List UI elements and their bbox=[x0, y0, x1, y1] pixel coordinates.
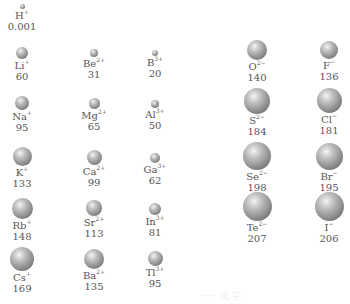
ion-radius-value: 206 bbox=[299, 233, 350, 244]
ion-in: In3+81 bbox=[125, 203, 185, 238]
ion-symbol: K+ bbox=[0, 168, 52, 178]
ion-symbol: Al3+ bbox=[125, 110, 185, 120]
ion-radius-value: 31 bbox=[64, 69, 124, 80]
ion-radius-value: 60 bbox=[0, 71, 52, 82]
ion-radius-value: 99 bbox=[64, 177, 124, 188]
ion-b: B3+20 bbox=[125, 50, 185, 79]
ion-cl: Cl−181 bbox=[299, 88, 350, 136]
ion-symbol: Cl− bbox=[299, 115, 350, 125]
ion-radius-value: 95 bbox=[0, 122, 52, 133]
ion-symbol: Ga3+ bbox=[125, 165, 185, 175]
ion-br: Br−195 bbox=[299, 143, 350, 193]
ion-radius-value: 148 bbox=[0, 231, 52, 242]
ion-sphere-icon bbox=[10, 247, 34, 271]
ion-sphere-icon bbox=[317, 88, 342, 113]
ion-radius-value: 62 bbox=[125, 175, 185, 186]
ion-s: S2−184 bbox=[227, 88, 287, 137]
watermark: ······ 化 学 bbox=[200, 289, 241, 302]
ion-mg: Mg2+65 bbox=[64, 98, 124, 132]
ion-sphere-icon bbox=[84, 249, 104, 269]
ion-cs: Cs+169 bbox=[0, 247, 52, 294]
ion-se: Se2−198 bbox=[227, 142, 287, 193]
ion-o: O2−140 bbox=[227, 40, 287, 83]
ion-sphere-icon bbox=[148, 251, 163, 266]
ion-symbol: Mg2+ bbox=[64, 111, 124, 121]
ion-radius-value: 20 bbox=[125, 68, 185, 79]
ion-sphere-icon bbox=[316, 143, 343, 170]
ion-te: Te2−207 bbox=[227, 192, 287, 244]
ion-i: I−206 bbox=[299, 192, 350, 244]
ion-radius-value: 136 bbox=[299, 71, 350, 82]
ion-f: F−136 bbox=[299, 41, 350, 82]
ion-symbol: B3+ bbox=[125, 58, 185, 68]
ion-symbol: Be2+ bbox=[64, 59, 124, 69]
ion-radius-value: 81 bbox=[125, 227, 185, 238]
ion-sphere-icon bbox=[13, 147, 32, 166]
ion-symbol: Sr2+ bbox=[64, 218, 124, 228]
ion-radius-value: 113 bbox=[64, 228, 124, 239]
ion-sphere-icon bbox=[15, 96, 29, 110]
ion-na: Na+95 bbox=[0, 96, 52, 133]
ion-symbol: Ca2+ bbox=[64, 167, 124, 177]
ion-li: Li+60 bbox=[0, 47, 52, 82]
ion-ga: Ga3+62 bbox=[125, 153, 185, 186]
ion-sphere-icon bbox=[243, 142, 271, 170]
ion-h: H+0.001 bbox=[0, 4, 52, 32]
ion-sphere-icon bbox=[87, 150, 102, 165]
ion-symbol: Se2− bbox=[227, 172, 287, 182]
ion-sphere-icon bbox=[247, 40, 267, 60]
ion-radius-value: 95 bbox=[125, 278, 185, 289]
ion-be: Be2+31 bbox=[64, 49, 124, 80]
ion-sphere-icon bbox=[244, 88, 270, 114]
ion-symbol: Cs+ bbox=[0, 273, 52, 283]
ion-sr: Sr2+113 bbox=[64, 200, 124, 239]
ion-symbol: Li+ bbox=[0, 61, 52, 71]
ion-symbol: Br− bbox=[299, 172, 350, 182]
ion-sphere-icon bbox=[243, 192, 272, 221]
ion-symbol: F− bbox=[299, 61, 350, 71]
ion-symbol: In3+ bbox=[125, 217, 185, 227]
ion-radius-value: 207 bbox=[227, 233, 287, 244]
ion-radius-value: 0.001 bbox=[0, 21, 52, 32]
ion-radius-value: 169 bbox=[0, 283, 52, 294]
ion-symbol: Ba2+ bbox=[64, 271, 124, 281]
ion-radius-value: 184 bbox=[227, 126, 287, 137]
ion-symbol: S2− bbox=[227, 116, 287, 126]
ion-ba: Ba2+135 bbox=[64, 249, 124, 292]
ion-symbol: H+ bbox=[0, 11, 52, 21]
ion-k: K+133 bbox=[0, 147, 52, 189]
ion-sphere-icon bbox=[315, 192, 344, 221]
ion-rb: Rb+148 bbox=[0, 198, 52, 242]
ion-radius-value: 140 bbox=[227, 72, 287, 83]
ion-symbol: Tl3+ bbox=[125, 268, 185, 278]
ion-radius-value: 133 bbox=[0, 178, 52, 189]
ion-symbol: Te2− bbox=[227, 223, 287, 233]
ion-symbol: I− bbox=[299, 223, 350, 233]
ion-ca: Ca2+99 bbox=[64, 150, 124, 188]
ion-sphere-icon bbox=[86, 200, 102, 216]
ion-symbol: O2− bbox=[227, 62, 287, 72]
ion-sphere-icon bbox=[320, 41, 338, 59]
ion-tl: Tl3+95 bbox=[125, 251, 185, 289]
ion-radius-value: 135 bbox=[64, 281, 124, 292]
ion-symbol: Na+ bbox=[0, 112, 52, 122]
ion-symbol: Rb+ bbox=[0, 221, 52, 231]
ion-radius-value: 65 bbox=[64, 121, 124, 132]
ion-al: Al3+50 bbox=[125, 100, 185, 131]
ion-radius-value: 181 bbox=[299, 125, 350, 136]
ion-radius-value: 50 bbox=[125, 120, 185, 131]
ion-sphere-icon bbox=[12, 198, 33, 219]
